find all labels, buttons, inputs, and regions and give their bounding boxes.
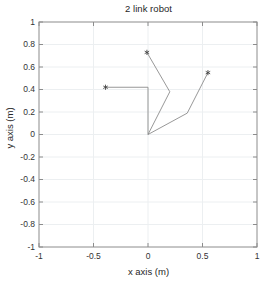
y-tick-label: 0 [9,129,35,139]
y-tick-label: -0.2 [9,152,35,162]
y-tick-label: -0.6 [9,197,35,207]
figure-canvas: 2 link robot x axis (m) y axis (m) -1-0.… [0,0,265,284]
x-tick-label: -0.5 [79,251,109,261]
y-tick-label: -0.8 [9,219,35,229]
y-tick-label: 0.4 [9,84,35,94]
x-tick-label: 0.5 [188,251,218,261]
y-tick-label: 1 [9,17,35,27]
chart-plot-area [0,0,265,284]
y-tick-label: 0.8 [9,39,35,49]
x-axis-label: x axis (m) [39,266,258,277]
x-tick-label: 1 [242,251,265,261]
x-tick-label: -1 [24,251,54,261]
y-tick-label: 0.2 [9,107,35,117]
y-tick-label: -1 [9,242,35,252]
y-tick-label: 0.6 [9,62,35,72]
y-tick-label: -0.4 [9,174,35,184]
x-tick-label: 0 [133,251,163,261]
